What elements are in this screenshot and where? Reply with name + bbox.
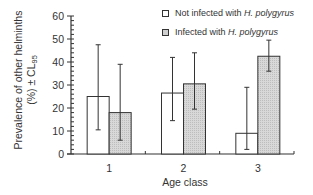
y-axis-label-line1: Prevalence of other helminths [12, 0, 25, 160]
y-tick-label: 60 [52, 10, 64, 22]
legend-swatch-gray [162, 29, 169, 36]
legend: Not infected with H. polygyrus Infected … [162, 7, 294, 45]
legend-label-species: H. polygyrus [228, 27, 278, 37]
x-tick-label: 3 [255, 162, 261, 174]
legend-label-prefix: Infected with [175, 27, 226, 37]
y-tick-label: 40 [52, 56, 64, 68]
legend-label-species: H. polygyrus [244, 8, 294, 18]
y-axis-label: Prevalence of other helminths (%) ± CL95 [12, 0, 40, 160]
x-axis-label: Age class [0, 176, 313, 188]
legend-label-prefix: Not infected with [175, 8, 242, 18]
legend-item-not-infected: Not infected with H. polygyrus [162, 7, 294, 19]
legend-swatch-white [162, 10, 169, 17]
y-tick-label: 0 [58, 148, 64, 160]
x-tick-label: 2 [181, 162, 187, 174]
legend-item-infected: Infected with H. polygyrus [162, 26, 294, 38]
y-tick-label: 20 [52, 102, 64, 114]
x-tick-label: 1 [106, 162, 112, 174]
y-tick-label: 10 [52, 125, 64, 137]
y-tick-label: 30 [52, 79, 64, 91]
y-tick-label: 50 [52, 33, 64, 45]
y-axis-label-line2: (%) ± CL95 [25, 0, 41, 160]
